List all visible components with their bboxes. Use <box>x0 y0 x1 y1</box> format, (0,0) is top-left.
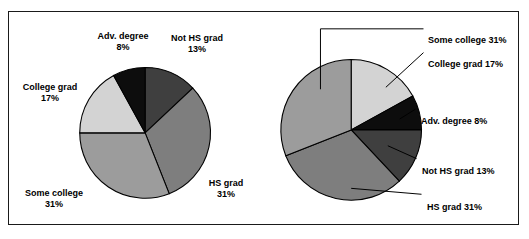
leader-line-some-college <box>320 29 423 89</box>
leader-line-hs-grad <box>351 188 421 194</box>
right-label-hs-grad: HS grad 31% <box>427 202 482 213</box>
leader-line-college-grad <box>386 53 424 88</box>
right-label-adv-degree: Adv. degree 8% <box>421 116 487 127</box>
chart-frame-border: Adv. degree 8% Not HS grad 13% College g… <box>8 11 519 225</box>
right-label-college-grad: College grad 17% <box>428 59 503 70</box>
leader-line-not-hs-grad <box>388 146 417 159</box>
right-label-not-hs-grad: Not HS grad 13% <box>422 166 495 177</box>
right-label-some-college: Some college 31% <box>428 35 507 46</box>
figure-canvas: Adv. degree 8% Not HS grad 13% College g… <box>0 0 529 239</box>
leader-line-adv-degree <box>400 109 416 119</box>
